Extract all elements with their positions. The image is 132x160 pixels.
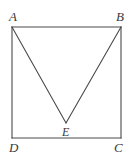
segment-BE-line bbox=[66, 27, 121, 123]
segment-AE-line bbox=[12, 27, 66, 123]
inscribed-v-shape bbox=[12, 27, 121, 123]
geometry-figure: A B C D E bbox=[0, 0, 132, 160]
vertex-label-b: B bbox=[116, 10, 124, 23]
vertex-label-c: C bbox=[114, 141, 123, 154]
vertex-label-d: D bbox=[9, 141, 18, 154]
vertex-label-a: A bbox=[9, 10, 17, 23]
vertex-label-e: E bbox=[62, 126, 69, 139]
